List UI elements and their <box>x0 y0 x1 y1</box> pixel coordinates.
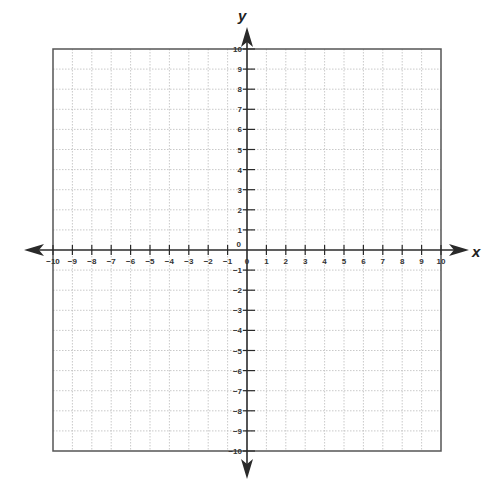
x-tick-label: −7 <box>107 257 117 266</box>
y-tick-label: 1 <box>238 226 243 235</box>
x-tick-label: 9 <box>419 257 424 266</box>
x-axis-title: x <box>471 243 481 260</box>
y-tick-label: 3 <box>238 186 243 195</box>
y-tick-label: 5 <box>238 146 243 155</box>
y-tick-label: 8 <box>238 85 243 94</box>
y-tick-label: −8 <box>233 407 243 416</box>
y-axis-title: y <box>237 7 247 24</box>
y-tick-label: −2 <box>233 286 243 295</box>
x-tick-label: −2 <box>204 257 214 266</box>
y-tick-label: 0 <box>237 240 242 249</box>
x-tick-labels: −10−9−8−7−6−5−4−3−2−1012345678910 <box>46 257 446 266</box>
x-tick-label: 10 <box>437 257 446 266</box>
y-tick-label: −5 <box>233 347 243 356</box>
y-tick-label: −6 <box>233 367 243 376</box>
y-tick-label: −3 <box>233 306 243 315</box>
coordinate-plane: −10−9−8−7−6−5−4−3−2−1012345678910 −10−9−… <box>0 0 497 494</box>
y-tick-label: 6 <box>238 125 243 134</box>
y-tick-label: −1 <box>233 266 243 275</box>
x-tick-label: 8 <box>400 257 405 266</box>
y-tick-label: −7 <box>233 387 243 396</box>
y-tick-label: 2 <box>238 206 243 215</box>
y-tick-label: −10 <box>228 447 242 456</box>
x-tick-label: 4 <box>322 257 327 266</box>
y-tick-label: 10 <box>233 45 242 54</box>
x-tick-label: 6 <box>361 257 366 266</box>
x-tick-label: −10 <box>46 257 60 266</box>
x-tick-label: −3 <box>184 257 194 266</box>
x-tick-label: −4 <box>165 257 175 266</box>
y-tick-label: −9 <box>233 427 243 436</box>
x-tick-label: −5 <box>145 257 155 266</box>
x-tick-label: 7 <box>381 257 386 266</box>
x-tick-label: −6 <box>126 257 136 266</box>
x-tick-label: −9 <box>68 257 78 266</box>
x-tick-label: −1 <box>223 257 233 266</box>
x-tick-label: 3 <box>303 257 308 266</box>
x-tick-label: −8 <box>87 257 97 266</box>
y-tick-label: 9 <box>238 65 243 74</box>
y-tick-label: 4 <box>238 166 243 175</box>
y-tick-label: −4 <box>233 326 243 335</box>
x-tick-label: 1 <box>264 257 269 266</box>
x-tick-label: 0 <box>245 257 250 266</box>
x-tick-label: 5 <box>342 257 347 266</box>
x-tick-label: 2 <box>284 257 289 266</box>
y-tick-label: 7 <box>238 105 243 114</box>
